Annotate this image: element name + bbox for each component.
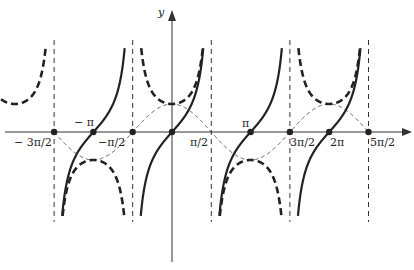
tick-label-5pi2: 5π/2	[370, 136, 395, 149]
y-axis-label: y	[158, 6, 164, 19]
tick-label-negpi2: −π/2	[98, 136, 125, 149]
point-marker	[130, 129, 136, 135]
secant-curve	[220, 160, 282, 216]
point-marker	[51, 129, 57, 135]
point-marker	[287, 129, 293, 135]
x-axis-arrow-icon	[402, 128, 412, 136]
point-marker	[365, 129, 371, 135]
secant-curve	[63, 160, 125, 216]
trig-graph: y − 3π/2 − π −π/2 π/2 π 3π/2 2π 5π/2	[0, 0, 414, 270]
tick-label-pi2: π/2	[190, 136, 208, 149]
tick-label-neg3pi2: − 3π/2	[14, 136, 52, 149]
tick-label-negpi: − π	[74, 116, 94, 129]
plot-canvas	[0, 0, 414, 270]
point-marker	[326, 129, 332, 135]
y-axis-arrow-icon	[168, 10, 176, 21]
point-marker	[169, 129, 175, 135]
tick-label-2pi: 2π	[330, 136, 344, 149]
tick-label-3pi2: 3π/2	[290, 136, 315, 149]
secant-curve	[298, 48, 360, 104]
tick-label-pi: π	[242, 117, 249, 130]
point-marker	[90, 129, 96, 135]
secant-curve	[0, 48, 46, 104]
